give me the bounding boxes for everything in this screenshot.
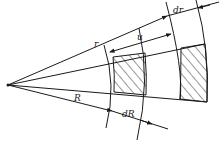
apex-point [7,84,10,87]
label-r: r [94,39,99,49]
label-R: R [73,93,81,103]
R-dimension-line [8,85,112,111]
upper-boundary-ray [8,44,205,85]
label-dr: dr [173,5,184,15]
label-u: u [137,32,143,42]
dR-arrow [140,120,152,124]
arc-R-outer [104,45,111,128]
diagram-svg: r u dr R dR [0,0,219,151]
label-dR: dR [122,109,135,119]
dr-arrow [198,5,210,8]
outer-hatched-element [180,44,207,102]
lower-boundary-ray [8,85,207,102]
diagram-canvas: r u dr R dR [0,0,219,151]
